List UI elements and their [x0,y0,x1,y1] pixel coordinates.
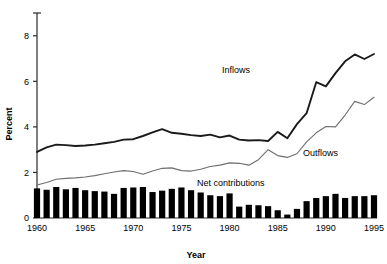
bar-1991 [332,194,338,218]
bar-1961 [44,190,50,218]
x-tick-label-1985: 1985 [268,223,288,233]
x-tick-label-1970: 1970 [123,223,143,233]
bar-1988 [304,201,310,218]
x-tick-label-1960: 1960 [27,223,47,233]
bar-1986 [284,215,290,218]
line-outflows [37,97,374,185]
y-tick-label-6: 6 [24,77,29,87]
bar-1978 [207,195,213,218]
bar-1963 [63,189,69,218]
bar-1985 [275,210,281,218]
bar-1976 [188,190,194,218]
bar-1990 [323,196,329,218]
bar-1971 [140,187,146,218]
bar-1974 [169,189,175,218]
bar-1983 [255,205,261,218]
chart-container: 02468 19601965197019751980198519901995 I… [0,0,387,264]
chart-plot-svg: 02468 19601965197019751980198519901995 I… [0,0,387,264]
x-tick-label-1995: 1995 [364,223,384,233]
x-axis-tick-labels: 19601965197019751980198519901995 [27,223,384,233]
bar-1980 [226,193,232,218]
bar-1995 [371,195,377,218]
bar-1994 [361,196,367,218]
y-tick-label-2: 2 [24,168,29,178]
bar-1970 [130,187,136,218]
x-tick-label-1975: 1975 [171,223,191,233]
bar-series-net-contributions [34,187,377,218]
bar-1992 [342,198,348,218]
x-axis-group: 19601965197019751980198519901995 [27,218,384,233]
y-tick-label-4: 4 [24,122,29,132]
x-tick-label-1990: 1990 [316,223,336,233]
bar-1984 [265,206,271,218]
inflows-label: Inflows [222,65,251,75]
x-axis-title: Year [186,250,206,260]
y-tick-label-8: 8 [24,31,29,41]
bar-1973 [159,191,165,218]
bar-1964 [72,188,78,218]
y-axis-tick-labels: 02468 [24,31,29,223]
bar-1965 [82,190,88,218]
bar-1962 [53,187,59,218]
bar-1969 [121,188,127,218]
y-axis-title: Percent [4,107,14,140]
bar-1972 [149,192,155,218]
bar-1993 [352,196,358,218]
line-series-group [37,54,374,185]
bar-1979 [217,196,223,218]
bar-1981 [236,207,242,218]
outflows-label: Outflows [303,148,339,158]
y-tick-label-0: 0 [24,213,29,223]
bar-1982 [246,205,252,218]
bar-1968 [111,194,117,218]
x-tick-label-1965: 1965 [75,223,95,233]
line-inflows [37,54,374,152]
net-contributions-label: Net contributions [197,178,265,188]
bar-1977 [198,192,204,218]
bar-1967 [101,192,107,218]
bar-1989 [313,198,319,218]
bar-1966 [92,191,98,218]
bar-1975 [178,187,184,218]
bar-1960 [34,188,40,218]
x-tick-label-1980: 1980 [220,223,240,233]
bar-1987 [294,209,300,218]
